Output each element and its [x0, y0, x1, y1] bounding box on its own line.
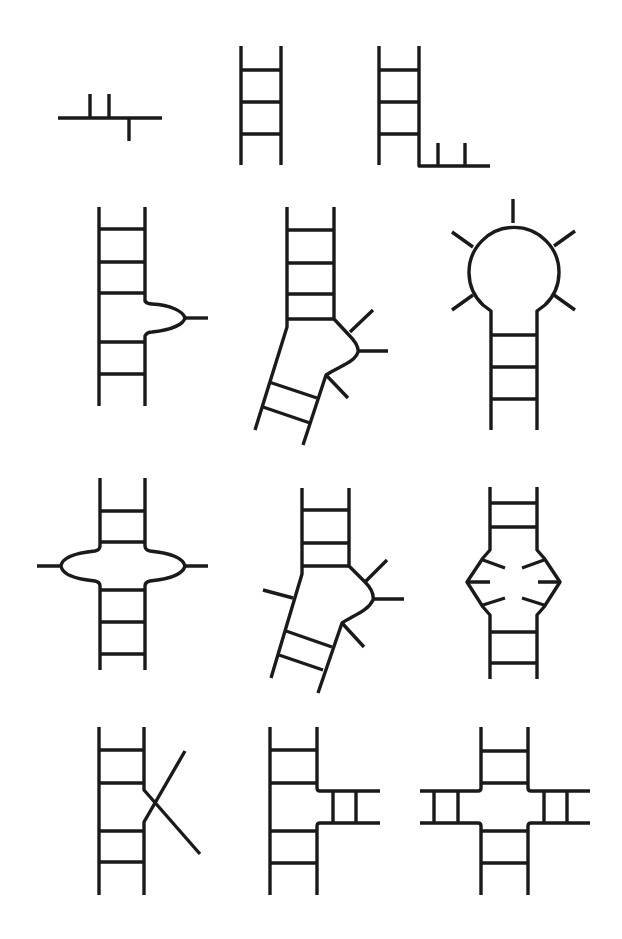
- panel-strand-crossover: Strand exchange / crossover: [99, 727, 200, 895]
- panel-single-strand: Single strand with unpaired bases: [58, 94, 162, 141]
- panel-asymmetric-internal-loop: Asymmetric internal loop with kink: [263, 488, 404, 693]
- panel-four-way-junction: Four-way junction: [420, 727, 590, 895]
- panel-double-helix: Double-stranded helix (stem): [241, 46, 281, 165]
- panel-bulge-kinked-helix: Bulge causing helix kink: [255, 207, 388, 445]
- panel-hairpin-loop: Hairpin (stem-loop): [452, 199, 575, 430]
- panel-dangling-end: Helix with single-stranded overhang: [379, 46, 490, 166]
- panel-symmetric-internal-loop: Symmetric internal loop: [37, 478, 208, 670]
- panel-three-way-junction: Three-way junction: [270, 727, 380, 895]
- panel-bulge-loop: Bulge loop: [99, 207, 208, 406]
- panel-internal-loop-mismatch: Internal loop with non-canonical pairs: [467, 487, 560, 679]
- secondary-structure-figure: Single strand with unpaired bases Double…: [0, 0, 622, 939]
